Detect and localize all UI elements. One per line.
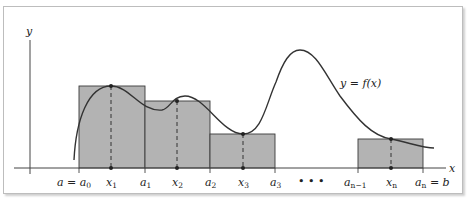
ellipsis: • • • — [298, 175, 324, 188]
tick-label-x2: x2 — [172, 176, 183, 190]
curve-label: y = f(x) — [339, 77, 381, 90]
tick-label-xn: xn — [386, 176, 397, 190]
x-axis-label: x — [449, 162, 456, 175]
tick-label-an-1: an−1 — [344, 176, 366, 190]
tick-label-a3: a3 — [270, 176, 282, 190]
tick-label-a1: a1 — [140, 176, 151, 190]
tick-label-x1: x1 — [106, 176, 117, 190]
tick-label-x3: x3 — [238, 176, 249, 190]
tick-marks — [79, 168, 423, 173]
rectangles — [79, 86, 423, 168]
riemann-sum-diagram: y x y = f(x) a = a0 x1 a1 x2 a2 x3 a3 • … — [0, 0, 476, 209]
tick-label-a0: a = a0 — [57, 176, 91, 190]
tick-label-an: an = b — [415, 176, 450, 190]
y-axis-label: y — [25, 25, 33, 38]
tick-label-a2: a2 — [205, 176, 217, 190]
